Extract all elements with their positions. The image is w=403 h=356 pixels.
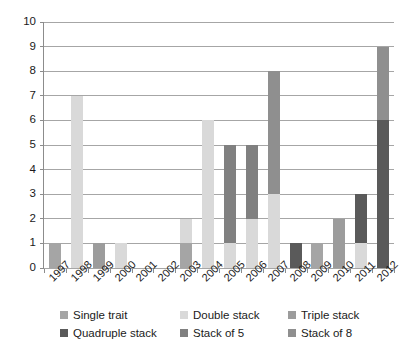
legend-swatch-icon [60,329,68,337]
y-axis-tick [40,194,44,195]
legend-item-quadruple-stack: Quadruple stack [60,327,180,339]
bar-stack [158,22,170,268]
bar-stack [311,22,323,268]
bar-stack [49,22,61,268]
bar-segment [180,219,192,244]
legend-swatch-icon [180,311,188,319]
bar-stack [246,22,258,268]
y-axis-tick-label: 4 [6,164,36,176]
legend-item-double-stack: Double stack [180,309,288,321]
bar-stack [224,22,236,268]
y-axis-tick-label: 6 [6,114,36,126]
y-axis-tick [40,145,44,146]
bar-stack [290,22,302,268]
bar-stack [115,22,127,268]
legend-label: Quadruple stack [73,327,157,339]
bar-stack [355,22,367,268]
legend-label: Stack of 5 [193,327,244,339]
bar-segment [71,96,83,268]
y-axis-tick [40,169,44,170]
y-axis-tick [40,46,44,47]
y-axis-tick-label: 2 [6,213,36,225]
legend-item-single-trait: Single trait [60,309,180,321]
legend-item-stack-of-5: Stack of 5 [180,327,288,339]
legend-label: Stack of 8 [301,327,352,339]
legend-row: Single trait Double stack Triple stack [60,306,390,324]
bar-stack [93,22,105,268]
y-axis-tick [40,71,44,72]
bar-segment [268,194,280,268]
plot-area [44,22,394,268]
bar-stack [180,22,192,268]
stacked-bar-chart: 012345678910 199719981999200020012002200… [0,0,403,356]
bar-segment [355,194,367,243]
y-axis-tick-label: 3 [6,188,36,200]
legend-row: Quadruple stack Stack of 5 Stack of 8 [60,324,390,342]
bar-segment [377,47,389,121]
y-axis-tick [40,218,44,219]
y-axis-tick [40,120,44,121]
bar-segment [202,120,214,268]
legend-label: Double stack [193,309,259,321]
y-axis-tick [40,95,44,96]
bar-segment [246,145,258,219]
y-axis-tick [40,243,44,244]
chart-legend: Single trait Double stack Triple stack Q… [60,306,390,342]
legend-item-stack-of-8: Stack of 8 [288,327,388,339]
bar-stack [71,22,83,268]
legend-swatch-icon [180,329,188,337]
legend-label: Single trait [73,309,127,321]
bar-segment [224,145,236,243]
y-axis-tick-label: 10 [6,16,36,28]
y-axis-tick-label: 1 [6,237,36,249]
legend-swatch-icon [60,311,68,319]
x-axis-tick [44,269,45,273]
bar-stack [268,22,280,268]
bar-stack [333,22,345,268]
legend-item-triple-stack: Triple stack [288,309,388,321]
y-axis-tick-label: 0 [6,262,36,274]
bar-stack [377,22,389,268]
y-axis-tick [40,22,44,23]
bar-segment [377,120,389,268]
y-axis-tick-label: 9 [6,41,36,53]
y-axis-tick-label: 5 [6,139,36,151]
legend-swatch-icon [288,329,296,337]
y-axis-tick-label: 7 [6,90,36,102]
bar-stack [202,22,214,268]
legend-swatch-icon [288,311,296,319]
y-axis-tick-label: 8 [6,65,36,77]
bar-segment [268,71,280,194]
legend-label: Triple stack [301,309,359,321]
bar-stack [136,22,148,268]
